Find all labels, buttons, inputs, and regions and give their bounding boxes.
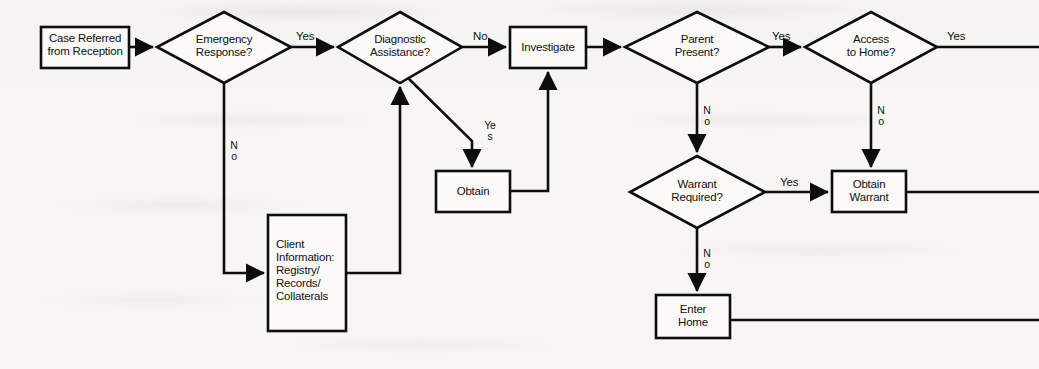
node-access-to-home <box>805 12 937 83</box>
node-emergency-response <box>157 12 291 83</box>
node-enter-home <box>656 295 730 338</box>
node-diagnostic-assistance <box>338 12 462 83</box>
node-obtain-warrant <box>832 171 906 212</box>
node-investigate <box>510 27 586 68</box>
edge-obtain-to-investigate <box>510 72 548 191</box>
node-client-information <box>268 215 346 331</box>
flowchart-canvas <box>0 0 1039 369</box>
node-parent-present <box>625 12 769 83</box>
edge-diagnostic-yes <box>408 78 472 167</box>
edge-client-to-diagnostic <box>346 87 400 273</box>
edge-emergency-no <box>224 83 264 273</box>
node-warrant-required <box>630 156 765 228</box>
node-obtain <box>436 171 510 212</box>
node-case-referred <box>41 27 129 68</box>
